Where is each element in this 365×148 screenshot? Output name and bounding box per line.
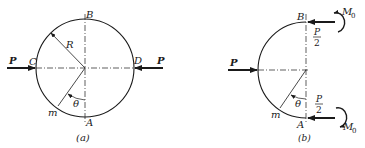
fraction-P-over-2-bottom: P 2 xyxy=(315,94,323,115)
label-m-b: m xyxy=(271,109,280,120)
caption-b: (b) xyxy=(298,133,311,143)
diagram-canvas: B A C D R θ m P P (a) B A θ m xyxy=(0,0,365,148)
label-C-a: C xyxy=(29,56,37,67)
label-P-right-a: P xyxy=(156,55,165,66)
figure-b: B A θ m P P 2 P 2 M 0 M 0 (b) xyxy=(228,6,356,143)
label-A-a: A xyxy=(85,117,93,128)
fraction-bottom-numerator: P xyxy=(315,94,323,104)
label-m-a: m xyxy=(48,107,57,118)
moment-bottom-sub: 0 xyxy=(352,127,356,135)
moment-label-bottom: M 0 xyxy=(342,121,356,135)
radial-line-m-b xyxy=(280,70,306,108)
label-P-left-b: P xyxy=(229,57,238,68)
label-D-a: D xyxy=(133,55,142,66)
label-B-a: B xyxy=(85,9,93,20)
label-R-a: R xyxy=(65,39,74,50)
label-theta-a: θ xyxy=(73,98,79,109)
caption-a: (a) xyxy=(76,132,90,143)
radial-line-m-a xyxy=(58,68,85,106)
label-P-left-a: P xyxy=(8,55,17,66)
fraction-top-denominator: 2 xyxy=(314,38,320,48)
moment-top-sub: 0 xyxy=(351,12,355,20)
label-B-b: B xyxy=(296,11,304,22)
fraction-bottom-denominator: 2 xyxy=(316,105,322,115)
label-A-b: A xyxy=(296,119,304,130)
figure-a: B A C D R θ m P P (a) xyxy=(7,9,165,143)
fraction-P-over-2-top: P 2 xyxy=(313,27,321,48)
fraction-top-numerator: P xyxy=(313,27,321,37)
label-theta-b: θ xyxy=(295,98,301,109)
